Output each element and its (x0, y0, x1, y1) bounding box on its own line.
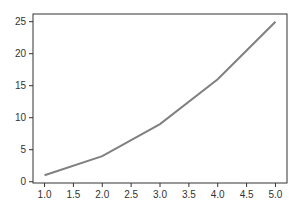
y-tick-label: 15 (15, 80, 27, 91)
x-tick-label: 3.0 (153, 189, 167, 200)
x-tick-label: 1.0 (38, 189, 52, 200)
x-tick-label: 4.5 (240, 189, 254, 200)
y-tick-label: 25 (15, 16, 27, 27)
y-tick-label: 0 (20, 176, 26, 187)
y-tick-label: 20 (15, 48, 27, 59)
x-axis: 1.01.52.02.53.03.54.04.55.0 (38, 183, 283, 200)
x-tick-label: 5.0 (269, 189, 283, 200)
x-tick-label: 2.0 (95, 189, 109, 200)
x-tick-label: 1.5 (66, 189, 80, 200)
x-tick-label: 4.0 (211, 189, 225, 200)
x-tick-label: 2.5 (124, 189, 138, 200)
y-tick-label: 10 (15, 112, 27, 123)
data-line (45, 22, 276, 176)
plot-frame (33, 14, 287, 183)
x-tick-label: 3.5 (182, 189, 196, 200)
y-axis: 0510152025 (15, 16, 33, 187)
line-chart: 1.01.52.02.53.03.54.04.55.0 0510152025 (0, 0, 303, 211)
y-tick-label: 5 (20, 144, 26, 155)
